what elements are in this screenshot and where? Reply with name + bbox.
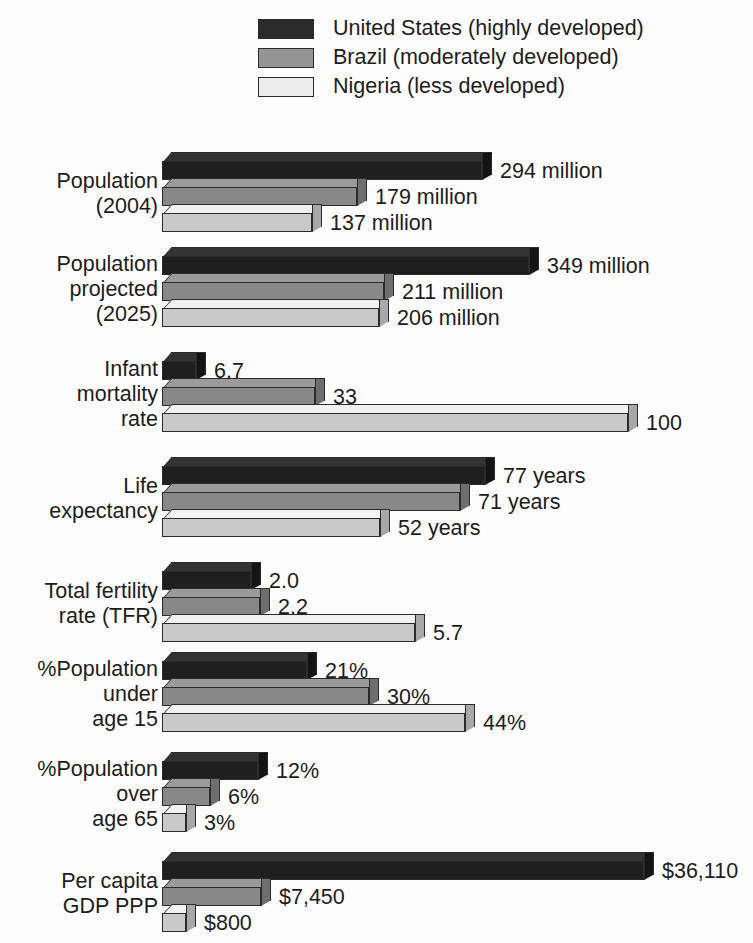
bar-total-fertility-rate-nigeria[interactable] bbox=[162, 614, 415, 644]
bar-side-face bbox=[186, 904, 196, 932]
bar-side-face bbox=[307, 652, 317, 680]
bar-stack-population-2004: 294 million179 million137 million bbox=[0, 152, 753, 240]
chart-group-population-2025: Populationprojected(2025)349 million211 … bbox=[0, 247, 753, 335]
bar-value-label-population-over-65-brazil: 6% bbox=[228, 787, 259, 809]
bar-side-face bbox=[482, 152, 492, 180]
bar-side-face bbox=[258, 752, 268, 780]
chart-group-infant-mortality: Infantmortalityrate6.733100 bbox=[0, 352, 753, 440]
legend-swatch-us bbox=[258, 19, 314, 39]
bar-stack-infant-mortality: 6.733100 bbox=[0, 352, 753, 440]
bar-side-face bbox=[379, 299, 389, 327]
legend-swatch-nigeria bbox=[258, 77, 314, 97]
chart-legend: United States (highly developed)Brazil (… bbox=[258, 14, 728, 101]
bar-side-face bbox=[384, 273, 394, 301]
bar-population-under-15-nigeria[interactable] bbox=[162, 704, 465, 734]
bar-side-face bbox=[260, 588, 270, 616]
chart-container: United States (highly developed)Brazil (… bbox=[0, 0, 753, 943]
chart-group-population-under-15: %Populationunderage 1521%30%44% bbox=[0, 652, 753, 740]
bar-side-face bbox=[415, 614, 425, 642]
chart-group-population-over-65: %Populationoverage 6512%6%3% bbox=[0, 752, 753, 840]
bar-value-label-population-2004-brazil: 179 million bbox=[375, 187, 478, 209]
bar-front-face bbox=[162, 913, 186, 932]
bar-front-face bbox=[162, 308, 379, 327]
bar-side-face bbox=[485, 457, 495, 485]
chart-group-life-expectancy: Lifeexpectancy77 years71 years52 years bbox=[0, 457, 753, 545]
bar-value-label-population-2025-us: 349 million bbox=[547, 256, 650, 278]
legend-item-us[interactable]: United States (highly developed) bbox=[258, 14, 728, 43]
bar-side-face bbox=[628, 404, 638, 432]
bar-population-over-65-nigeria[interactable] bbox=[162, 804, 186, 834]
legend-item-nigeria[interactable]: Nigeria (less developed) bbox=[258, 72, 728, 101]
bar-front-face bbox=[162, 213, 312, 232]
bar-value-label-population-2025-nigeria: 206 million bbox=[397, 308, 500, 330]
bar-stack-population-over-65: 12%6%3% bbox=[0, 752, 753, 840]
bar-value-label-population-under-15-nigeria: 44% bbox=[483, 713, 526, 735]
bar-side-face bbox=[369, 678, 379, 706]
bar-infant-mortality-nigeria[interactable] bbox=[162, 404, 628, 434]
bar-value-label-population-2004-nigeria: 137 million bbox=[330, 213, 433, 235]
legend-label-nigeria: Nigeria (less developed) bbox=[333, 76, 565, 98]
bar-side-face bbox=[196, 352, 206, 380]
bar-per-capita-gdp-ppp-nigeria[interactable] bbox=[162, 904, 186, 934]
bar-population-2025-nigeria[interactable] bbox=[162, 299, 379, 329]
bar-value-label-per-capita-gdp-ppp-brazil: $7,450 bbox=[279, 887, 345, 909]
bar-value-label-infant-mortality-nigeria: 100 bbox=[646, 413, 682, 435]
bar-value-label-population-over-65-nigeria: 3% bbox=[204, 813, 235, 835]
bar-value-label-population-over-65-us: 12% bbox=[276, 761, 319, 783]
bar-side-face bbox=[210, 778, 220, 806]
bar-stack-total-fertility-rate: 2.02.25.7 bbox=[0, 562, 753, 650]
bar-life-expectancy-nigeria[interactable] bbox=[162, 509, 380, 539]
bar-side-face bbox=[460, 483, 470, 511]
bar-side-face bbox=[315, 378, 325, 406]
bar-side-face bbox=[312, 204, 322, 232]
bar-side-face bbox=[644, 852, 654, 880]
bar-side-face bbox=[357, 178, 367, 206]
bar-side-face bbox=[186, 804, 196, 832]
bar-value-label-per-capita-gdp-ppp-us: $36,110 bbox=[662, 861, 738, 883]
bar-front-face bbox=[162, 518, 380, 537]
legend-swatch-brazil bbox=[258, 48, 314, 68]
bar-value-label-population-2004-us: 294 million bbox=[500, 161, 603, 183]
bar-front-face bbox=[162, 713, 465, 732]
bar-side-face bbox=[251, 562, 261, 590]
bar-stack-life-expectancy: 77 years71 years52 years bbox=[0, 457, 753, 545]
legend-label-brazil: Brazil (moderately developed) bbox=[333, 47, 619, 69]
bar-stack-population-under-15: 21%30%44% bbox=[0, 652, 753, 740]
legend-item-brazil[interactable]: Brazil (moderately developed) bbox=[258, 43, 728, 72]
bar-side-face bbox=[380, 509, 390, 537]
bar-value-label-life-expectancy-us: 77 years bbox=[503, 466, 585, 488]
chart-group-per-capita-gdp-ppp: Per capitaGDP PPP$36,110$7,450$800 bbox=[0, 852, 753, 940]
bar-value-label-population-2025-brazil: 211 million bbox=[402, 282, 503, 304]
bar-front-face bbox=[162, 813, 186, 832]
bar-front-face bbox=[162, 413, 628, 432]
bar-population-2004-nigeria[interactable] bbox=[162, 204, 312, 234]
bar-stack-population-2025: 349 million211 million206 million bbox=[0, 247, 753, 335]
bar-value-label-total-fertility-rate-nigeria: 5.7 bbox=[433, 623, 463, 645]
chart-group-population-2004: Population(2004)294 million179 million13… bbox=[0, 152, 753, 240]
bar-side-face bbox=[465, 704, 475, 732]
bar-front-face bbox=[162, 623, 415, 642]
bar-stack-per-capita-gdp-ppp: $36,110$7,450$800 bbox=[0, 852, 753, 940]
bar-value-label-life-expectancy-nigeria: 52 years bbox=[398, 518, 480, 540]
bar-value-label-total-fertility-rate-us: 2.0 bbox=[269, 571, 299, 593]
bar-value-label-life-expectancy-brazil: 71 years bbox=[478, 492, 560, 514]
chart-group-total-fertility-rate: Total fertilityrate (TFR)2.02.25.7 bbox=[0, 562, 753, 650]
bar-side-face bbox=[261, 878, 271, 906]
bar-side-face bbox=[529, 247, 539, 275]
legend-label-us: United States (highly developed) bbox=[333, 18, 644, 40]
bar-value-label-per-capita-gdp-ppp-nigeria: $800 bbox=[204, 913, 252, 935]
